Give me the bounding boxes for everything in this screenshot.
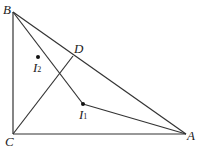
point-I2	[36, 55, 40, 59]
label-I1: I1	[79, 108, 87, 121]
label-A: A	[187, 129, 195, 142]
label-I1-sub: 1	[83, 112, 87, 121]
label-C: C	[5, 135, 14, 147]
segment-BI1	[13, 12, 83, 104]
label-I2: I2	[33, 61, 41, 74]
geometry-diagram: B C A D I1 I2	[0, 0, 199, 147]
segment-I1A	[83, 104, 186, 134]
label-B: B	[3, 3, 11, 16]
label-I2-sub: 2	[37, 65, 41, 74]
diagram-lines	[0, 0, 199, 147]
label-D: D	[74, 42, 83, 55]
segment-CD	[13, 56, 73, 134]
point-I1	[81, 102, 85, 106]
